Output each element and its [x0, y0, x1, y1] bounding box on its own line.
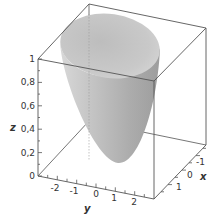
x-tick-label: 0 — [187, 170, 193, 180]
box-edge-back-bottom-left — [38, 121, 89, 176]
y-tick-label: -2 — [51, 183, 60, 193]
z-tick-label: 0 — [29, 171, 35, 181]
z-tick-label: 0,6 — [21, 101, 36, 111]
z-axis-label: z — [9, 122, 16, 133]
z-tick-label: 1 — [29, 54, 35, 64]
box-edge-top-right — [154, 28, 206, 81]
x-axis-label: x — [199, 171, 207, 182]
z-tick-label: 0,2 — [21, 148, 35, 158]
z-tick-label: 0,8 — [21, 77, 36, 87]
x-tick-label: 1 — [176, 182, 182, 192]
x-tick-label: -1 — [196, 157, 205, 167]
y-tick-label: 2 — [131, 197, 137, 207]
y-tick-label: 1 — [111, 193, 117, 203]
y-axis-label: y — [84, 203, 91, 214]
z-axis-ticks — [38, 59, 42, 176]
y-tick-label: 0 — [93, 189, 99, 199]
paraboloid-3d-plot: 0 0,2 0,4 0,6 0,8 1 z -2 -1 0 1 2 y — [0, 0, 211, 216]
y-tick-label: -1 — [70, 186, 79, 196]
z-axis-tick-labels: 0 0,2 0,4 0,6 0,8 1 — [21, 54, 36, 181]
z-tick-label: 0,4 — [21, 124, 36, 134]
